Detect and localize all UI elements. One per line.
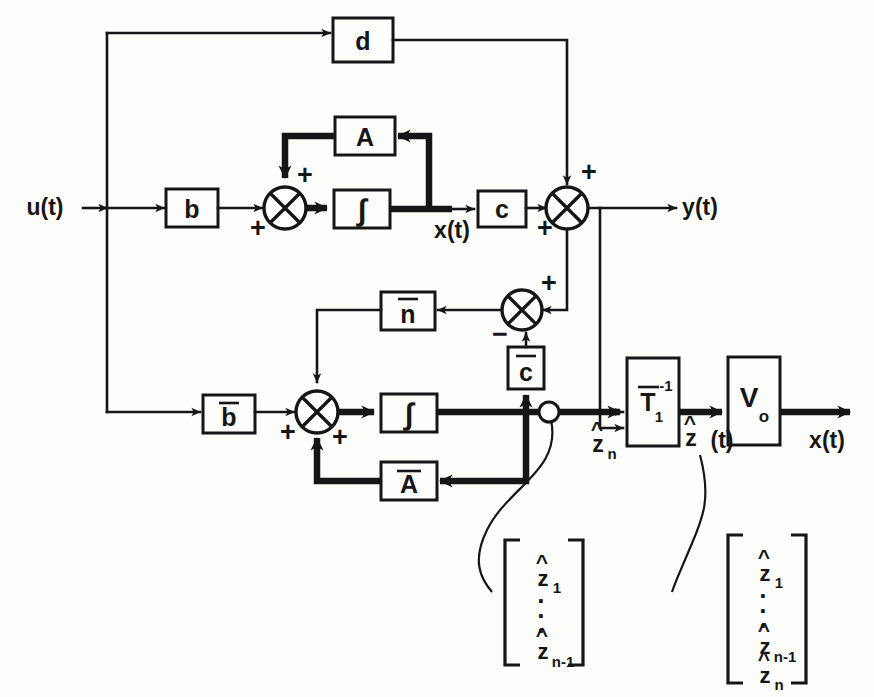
block-d[interactable]: d bbox=[333, 18, 393, 62]
wire-nbar-to-obs-sum bbox=[317, 310, 381, 382]
z-hat-t-paren: (t) bbox=[711, 427, 734, 453]
block-b-bar[interactable]: b bbox=[203, 395, 255, 433]
block-V-label: V bbox=[740, 382, 759, 413]
signal-label-z-hat-t: ^ z (t) bbox=[684, 411, 734, 454]
summing-junction-plant[interactable] bbox=[264, 187, 306, 229]
block-c-bar[interactable]: c bbox=[508, 347, 544, 389]
summing-junction-error[interactable] bbox=[502, 290, 542, 330]
sign-observer-bottom: + bbox=[332, 422, 348, 452]
block-integrator-observer[interactable]: ∫ bbox=[381, 394, 437, 432]
signal-label-state: x(t) bbox=[434, 217, 470, 243]
vec-right-row2-sub: n-1 bbox=[774, 648, 797, 665]
sign-error-bottom: − bbox=[492, 319, 508, 349]
vector-annotation-left: ^ z 1 · · · ^ z n-1 bbox=[505, 540, 583, 670]
signal-label-state-estimate: x(t) bbox=[809, 427, 845, 453]
block-V-subscript: o bbox=[759, 407, 769, 426]
block-integrator-plant[interactable]: ∫ bbox=[334, 190, 390, 228]
vec-right-row3-base: z bbox=[760, 663, 771, 688]
block-b-label: b bbox=[184, 195, 199, 223]
signal-label-state-estimate-text: x(t) bbox=[809, 427, 845, 453]
block-c[interactable]: c bbox=[478, 191, 526, 227]
block-n-bar-label: n bbox=[400, 300, 415, 328]
block-b-bar-label: b bbox=[221, 403, 236, 431]
vec-right-row0-sub: 1 bbox=[775, 574, 783, 591]
integrator-glyph: ∫ bbox=[356, 193, 369, 227]
vec-right-row3-sub: n bbox=[774, 676, 783, 693]
leader-curve-right-vector bbox=[672, 455, 705, 592]
signal-label-output: y(t) bbox=[682, 194, 718, 220]
block-c-label: c bbox=[495, 195, 509, 223]
z-hat-n-subscript: n bbox=[607, 445, 616, 462]
block-A-bar[interactable]: A bbox=[381, 462, 437, 500]
block-T-superscript: -1 bbox=[659, 377, 672, 394]
sign-output-left: + bbox=[537, 213, 553, 243]
block-A-label: A bbox=[356, 123, 374, 151]
signal-label-z-hat-n: ^ z n bbox=[591, 417, 617, 462]
block-diagram-svg: d A b ∫ c n c b ∫ bbox=[0, 0, 874, 697]
vec-left-row2-sub: n-1 bbox=[552, 653, 575, 670]
signal-tap-point[interactable] bbox=[539, 402, 559, 422]
z-hat-n-base: z bbox=[592, 431, 604, 457]
z-hat-t-base: z bbox=[685, 425, 697, 451]
block-T-subscript: 1 bbox=[655, 408, 663, 425]
block-T-label: T bbox=[640, 388, 655, 416]
sign-plant-top: + bbox=[297, 160, 313, 190]
wire-y-to-Tinv-zn bbox=[600, 208, 623, 428]
block-b[interactable]: b bbox=[166, 189, 218, 227]
sign-plant-left: + bbox=[250, 213, 266, 243]
sign-observer-left: + bbox=[280, 417, 296, 447]
block-V0[interactable]: V o bbox=[728, 357, 780, 445]
vector-annotation-right: ^ z 1 · · · ^ z n-1 ^ z n bbox=[728, 535, 806, 693]
signal-label-input: u(t) bbox=[26, 194, 63, 220]
block-A[interactable]: A bbox=[335, 117, 395, 155]
vec-left-row2-base: z bbox=[538, 639, 549, 664]
block-diagram-canvas: d A b ∫ c n c b ∫ bbox=[0, 0, 874, 697]
block-n-bar[interactable]: n bbox=[381, 292, 435, 330]
wire-d-to-output-sum bbox=[393, 40, 567, 184]
block-d-label: d bbox=[355, 27, 370, 55]
sign-output-top: + bbox=[581, 157, 597, 187]
block-T1-inverse[interactable]: T 1 -1 bbox=[627, 358, 679, 446]
sign-error-top: + bbox=[541, 268, 557, 298]
block-c-bar-label: c bbox=[519, 358, 533, 386]
wire-Abar-feedback-loop bbox=[317, 412, 526, 481]
vec-left-row0-sub: 1 bbox=[553, 579, 561, 596]
block-A-bar-label: A bbox=[400, 470, 418, 498]
integrator-observer-glyph: ∫ bbox=[403, 397, 416, 431]
